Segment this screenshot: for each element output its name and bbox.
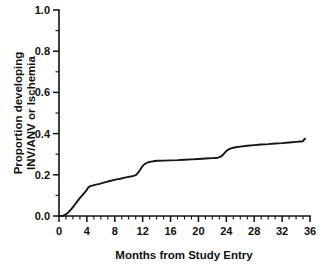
x-tick-label: 36 <box>304 225 316 237</box>
y-axis-title-line2: INV/ANV or Ischemia <box>25 56 37 170</box>
x-axis-title: Months from Study Entry <box>115 249 253 261</box>
x-tick-label: 12 <box>137 225 149 237</box>
chart-figure: 0.00.20.40.60.81.0 04812162024283236 Mon… <box>0 0 329 264</box>
x-tick-label: 8 <box>112 225 118 237</box>
y-tick-label: 0.0 <box>35 210 50 222</box>
x-tick-label: 32 <box>276 225 288 237</box>
x-tick-label: 4 <box>84 225 91 237</box>
y-tick-label: 0.8 <box>35 45 50 57</box>
x-tick-label: 0 <box>56 225 62 237</box>
y-tick-label: 1.0 <box>35 4 50 16</box>
x-tick-label: 24 <box>220 225 233 237</box>
y-tick-label: 0.4 <box>35 128 51 140</box>
x-tick-label: 20 <box>192 225 204 237</box>
y-axis-title-line1: Proportion developing <box>12 52 24 175</box>
x-tick-label: 28 <box>248 225 260 237</box>
x-tick-label: 16 <box>164 225 176 237</box>
cumulative-incidence-plot: 0.00.20.40.60.81.0 04812162024283236 Mon… <box>0 0 329 264</box>
